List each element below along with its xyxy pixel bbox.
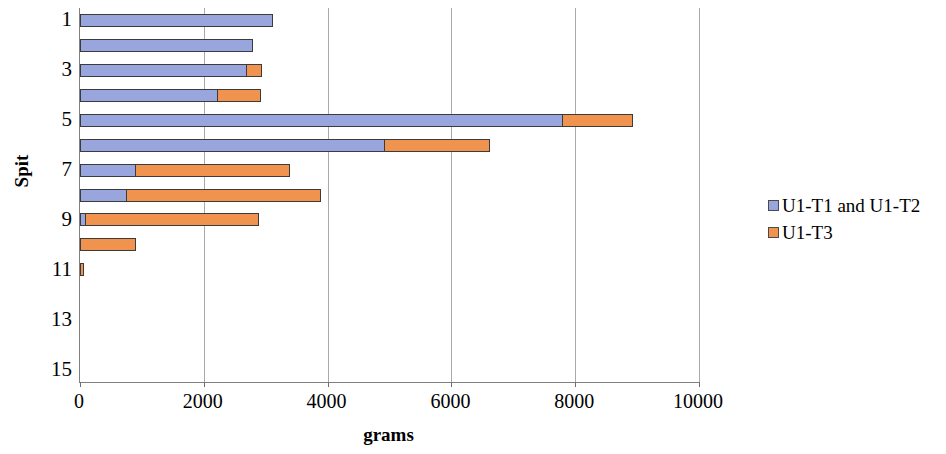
x-tick-label: 2000: [183, 391, 223, 411]
y-tick-label: 7: [26, 159, 72, 180]
y-tick-label: 3: [26, 59, 72, 80]
bar-segment-u1t1-u1t2: [80, 89, 218, 102]
y-tick-label: 13: [26, 309, 72, 330]
bar-segment-u1t1-u1t2: [80, 189, 127, 202]
x-gridline: [328, 8, 329, 382]
bar-segment-u1t1-u1t2: [80, 139, 385, 152]
plot-area: [79, 8, 699, 383]
bar-segment-u1t3: [246, 64, 263, 77]
legend-label: U1-T1 and U1-T2: [782, 196, 920, 215]
x-tick-label: 0: [74, 391, 84, 411]
legend-item: U1-T3: [768, 219, 946, 246]
bar-segment-u1t3: [217, 89, 261, 102]
bar-segment-u1t1-u1t2: [80, 64, 247, 77]
bar-segment-u1t3: [135, 164, 290, 177]
chart-legend: U1-T1 and U1-T2U1-T3: [768, 192, 946, 246]
bar-row: [80, 263, 84, 276]
x-tick-label: 8000: [554, 391, 594, 411]
y-tick-label: 1: [26, 9, 72, 30]
bar-row: [80, 213, 259, 226]
bar-row: [80, 164, 290, 177]
bar-segment-u1t3: [562, 114, 633, 127]
y-tick-label: 15: [26, 359, 72, 380]
bar-segment-u1t3: [85, 213, 259, 226]
y-tick-label: 11: [26, 259, 72, 280]
bar-row: [80, 238, 136, 251]
stacked-bar-chart: Spit 13579111315 0200040006000800010000 …: [0, 0, 946, 454]
x-tickmark: [451, 382, 452, 387]
bar-row: [80, 64, 262, 77]
x-tickmark: [328, 382, 329, 387]
bar-row: [80, 114, 633, 127]
x-gridline: [451, 8, 452, 382]
bar-segment-u1t3: [126, 189, 321, 202]
legend-swatch-icon: [768, 200, 779, 211]
x-tick-label: 4000: [307, 391, 347, 411]
y-axis-tick-labels: 13579111315: [14, 0, 72, 454]
bar-segment-u1t1-u1t2: [80, 39, 253, 52]
bar-row: [80, 139, 490, 152]
y-tick-label: 9: [26, 209, 72, 230]
bar-row: [80, 189, 321, 202]
x-tickmark: [204, 382, 205, 387]
y-tick-label: 5: [26, 109, 72, 130]
bar-row: [80, 14, 273, 27]
x-gridline: [699, 8, 700, 382]
bar-row: [80, 89, 261, 102]
bar-row: [80, 39, 253, 52]
x-tickmark: [699, 382, 700, 387]
legend-item: U1-T1 and U1-T2: [768, 192, 946, 219]
x-axis-title: grams: [79, 424, 698, 446]
bar-segment-u1t1-u1t2: [80, 114, 563, 127]
bar-segment-u1t1-u1t2: [80, 14, 273, 27]
bar-segment-u1t3: [80, 238, 136, 251]
x-tickmark: [80, 382, 81, 387]
legend-label: U1-T3: [782, 223, 833, 242]
x-gridline: [575, 8, 576, 382]
x-tick-label: 10000: [673, 391, 723, 411]
bar-segment-u1t3: [384, 139, 490, 152]
legend-swatch-icon: [768, 227, 779, 238]
bar-segment-u1t3: [80, 263, 84, 276]
x-tickmark: [575, 382, 576, 387]
bar-segment-u1t1-u1t2: [80, 164, 136, 177]
x-tick-label: 6000: [430, 391, 470, 411]
